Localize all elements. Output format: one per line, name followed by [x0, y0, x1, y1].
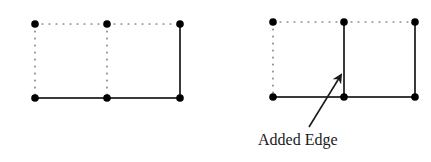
graph-after	[269, 18, 419, 101]
graph-node	[31, 20, 39, 28]
graph-diagram	[0, 0, 431, 162]
graph-node	[103, 94, 111, 102]
graph-node	[269, 18, 277, 26]
graph-node	[31, 94, 39, 102]
graph-node	[176, 20, 184, 28]
graph-node	[269, 93, 277, 101]
added-edge-arrow	[309, 75, 341, 127]
graph-before	[31, 20, 184, 102]
graph-node	[103, 20, 111, 28]
graph-node	[176, 94, 184, 102]
added-edge-label: Added Edge	[258, 131, 338, 149]
graph-node	[340, 93, 348, 101]
graph-node	[411, 18, 419, 26]
graph-node	[340, 18, 348, 26]
graph-node	[411, 93, 419, 101]
